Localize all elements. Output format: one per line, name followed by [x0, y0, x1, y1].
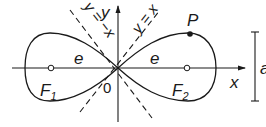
scale-label: a: [260, 59, 266, 78]
focus-f1-marker: [48, 65, 54, 71]
focus-f2-label: F2: [172, 81, 189, 102]
point-p-label: P: [187, 11, 199, 30]
point-p-marker: [187, 31, 193, 37]
focus-f2-marker: [184, 65, 190, 71]
origin-label: 0: [103, 79, 111, 96]
diagram-canvas: y x 0 F1 F2 P e e y = −x y = x a: [0, 0, 266, 127]
lemniscate-diagram: y x 0 F1 F2 P e e y = −x y = x a: [0, 0, 266, 127]
asymptote-pos-label: y = x: [127, 0, 161, 37]
x-axis-label: x: [229, 73, 239, 92]
asymptote-neg-label: y = −x: [80, 0, 119, 41]
e-left-label: e: [74, 49, 83, 68]
focus-f1-label: F1: [40, 81, 57, 102]
e-right-label: e: [150, 49, 159, 68]
